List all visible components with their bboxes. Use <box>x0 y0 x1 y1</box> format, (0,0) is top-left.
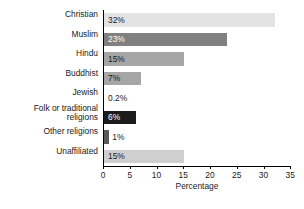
bar-row: Unaffiliated15% <box>0 147 304 167</box>
x-tick-label: 25 <box>232 170 241 180</box>
x-tick-mark <box>264 166 265 169</box>
x-tick-mark <box>157 166 158 169</box>
category-label: Christian <box>2 10 98 19</box>
x-tick-mark <box>210 166 211 169</box>
x-tick-label: 20 <box>205 170 214 180</box>
bar-value-label: 6% <box>108 112 120 122</box>
bar <box>104 13 275 27</box>
bar-value-label: 15% <box>108 151 125 161</box>
bar-row: Hindu15% <box>0 49 304 69</box>
category-label: Muslim <box>2 30 98 39</box>
bar <box>104 91 105 105</box>
x-tick-mark <box>290 166 291 169</box>
x-tick-label: 15 <box>179 170 188 180</box>
x-tick-label: 5 <box>127 170 132 180</box>
x-tick-mark <box>237 166 238 169</box>
x-tick-label: 10 <box>152 170 161 180</box>
category-label: Folk or traditional religions <box>2 104 98 123</box>
bar-row: Other religions1% <box>0 127 304 147</box>
category-label: Other religions <box>2 127 98 136</box>
x-tick-mark <box>130 166 131 169</box>
category-label: Buddhist <box>2 69 98 78</box>
x-tick-label: 35 <box>286 170 295 180</box>
bar-row: Christian32% <box>0 10 304 30</box>
x-tick-mark <box>103 166 104 169</box>
x-tick-label: 30 <box>259 170 268 180</box>
bar-row: Buddhist7% <box>0 69 304 89</box>
bar-row: Folk or traditional religions6% <box>0 108 304 128</box>
bar-value-label: 0.2% <box>108 93 127 103</box>
x-tick-label: 0 <box>101 170 106 180</box>
category-label: Unaffiliated <box>2 147 98 156</box>
bar-value-label: 1% <box>112 132 124 142</box>
religion-percentage-bar-chart: Christian32%Muslim23%Hindu15%Buddhist7%J… <box>0 0 304 209</box>
category-label: Hindu <box>2 49 98 58</box>
bar-row: Muslim23% <box>0 30 304 50</box>
bar-value-label: 23% <box>108 34 125 44</box>
x-axis-title: Percentage <box>103 181 291 191</box>
category-label: Jewish <box>2 88 98 97</box>
bar-value-label: 32% <box>108 15 125 25</box>
x-tick-mark <box>183 166 184 169</box>
bar-value-label: 15% <box>108 54 125 64</box>
bar <box>104 130 109 144</box>
bar-value-label: 7% <box>108 73 120 83</box>
